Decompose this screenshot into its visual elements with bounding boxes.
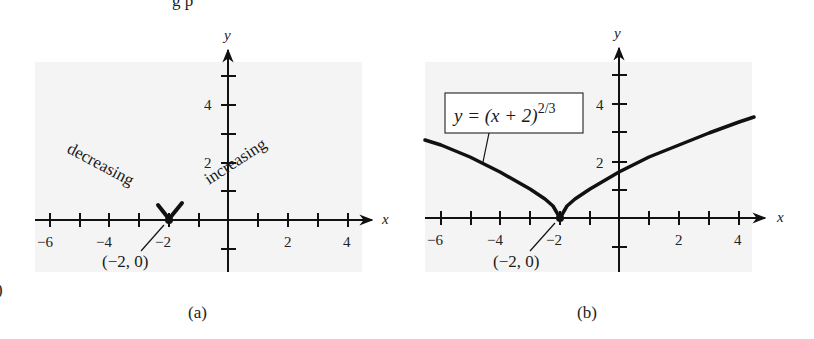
panel-a-y-label-4: 4 (204, 97, 212, 113)
panel-a-x-label-4: 4 (343, 234, 351, 250)
panel-a-caption: (a) (188, 303, 207, 322)
panel-b-x-label-neg6: −6 (427, 232, 443, 248)
panel-b-x-axis-name: x (776, 209, 784, 225)
panel-b-y-axis-name: y (612, 25, 621, 41)
panel-b-equation-base: y = (x + 2) (452, 105, 538, 127)
panel-b-caption: (b) (577, 303, 597, 322)
panel-a-point-label: (−2, 0) (102, 252, 148, 271)
panel-b-y-label-4: 4 (596, 97, 604, 113)
header-partial-text: g p (172, 0, 193, 10)
panel-a-x-label-neg2: −2 (155, 234, 171, 250)
panel-a-point-neg2-0 (165, 216, 173, 224)
panel-b-equation-exponent: 2/3 (538, 101, 556, 116)
panel-b-point-neg2-0 (556, 214, 564, 222)
left-margin-mark: ) (0, 280, 3, 299)
panel-b: −6 −4 −2 2 4 4 2 y x y = (x + 2)2/3 (−2,… (425, 25, 784, 322)
panel-b-x-label-neg2: −2 (546, 232, 562, 248)
panel-a: −6 −4 −2 2 4 4 2 y x (−2, 0) decreasing … (35, 27, 389, 322)
panel-a-x-label-neg4: −4 (96, 234, 112, 250)
panel-b-y-label-2: 2 (596, 155, 604, 171)
panel-a-x-label-2: 2 (284, 234, 292, 250)
figure-canvas: g p ) −6 (0, 0, 814, 339)
panel-a-x-label-neg6: −6 (37, 234, 53, 250)
panel-b-x-label-neg4: −4 (487, 232, 503, 248)
panel-b-x-label-4: 4 (734, 232, 742, 248)
panel-a-x-axis-name: x (381, 211, 389, 227)
panel-b-point-label: (−2, 0) (493, 252, 539, 271)
panel-a-background (35, 62, 362, 272)
panel-a-y-axis-name: y (222, 27, 231, 43)
panel-b-x-label-2: 2 (675, 232, 683, 248)
